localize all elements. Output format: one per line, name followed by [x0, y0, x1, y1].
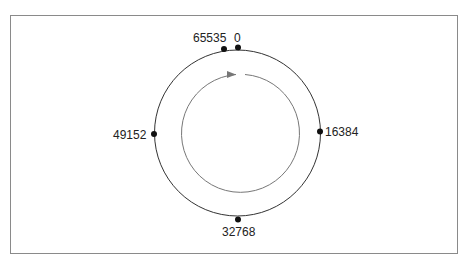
direction-arrow [182, 75, 300, 193]
label-65535: 65535 [193, 31, 227, 45]
outer-ring [155, 50, 321, 216]
point-49152-dot [151, 131, 157, 137]
point-32768-dot [235, 217, 241, 223]
label-0: 0 [234, 31, 241, 45]
label-49152: 49152 [113, 128, 147, 142]
ring-diagram: 0 65535 16384 32768 49152 [0, 0, 467, 264]
point-65535-dot [221, 46, 227, 52]
label-16384: 16384 [325, 125, 359, 139]
point-0-dot [235, 45, 241, 51]
label-32768: 32768 [222, 225, 256, 239]
arrowhead-icon [227, 71, 236, 78]
point-16384-dot [317, 129, 323, 135]
